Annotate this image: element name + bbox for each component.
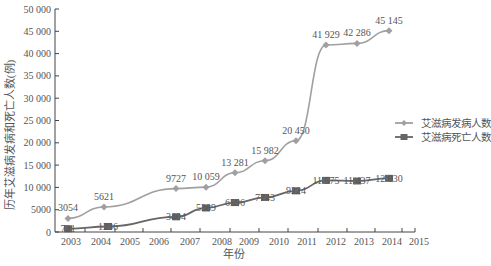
diamond-marker [262, 157, 269, 164]
data-label: 6596 [225, 197, 245, 208]
x-axis-label: 年份 [223, 247, 245, 260]
x-tick-label: 2009 [239, 236, 259, 247]
data-label: 3404 [166, 211, 186, 222]
data-label: 20 450 [282, 125, 310, 136]
y-tick-label: 5000 [31, 204, 51, 215]
y-tick-label: 25 000 [24, 115, 52, 126]
legend-label: 艾滋病发病人数 [421, 117, 491, 129]
y-tick-label: 45 000 [24, 26, 52, 37]
y-tick-label: 0 [46, 227, 51, 238]
y-axis: 0500010 00015 00020 00025 00030 00035 00… [24, 4, 60, 238]
data-label: 7743 [255, 192, 275, 203]
x-tick-label: 2010 [269, 236, 289, 247]
diamond-marker [203, 184, 210, 191]
y-tick-label: 10 000 [24, 182, 52, 193]
x-tick-label: 2012 [326, 236, 346, 247]
y-tick-label: 15 000 [24, 160, 52, 171]
data-label: 9727 [166, 173, 186, 184]
data-label: 721 [61, 223, 76, 234]
legend-label: 艾滋病死亡人数 [421, 131, 491, 143]
data-label: 3054 [58, 202, 78, 213]
diamond-marker [65, 215, 72, 222]
data-label: 45 145 [375, 15, 403, 26]
diamond-marker [101, 203, 108, 210]
legend-square-icon [401, 134, 408, 140]
data-label: 5621 [94, 191, 114, 202]
data-label: 15 982 [251, 145, 279, 156]
data-label: 12 030 [375, 173, 403, 184]
data-label: 5389 [196, 202, 216, 213]
diamond-marker [323, 41, 330, 48]
x-tick-label: 2006 [149, 236, 169, 247]
y-tick-label: 30 000 [24, 93, 52, 104]
data-label: 41 929 [312, 29, 340, 40]
data-label: 10 059 [192, 171, 220, 182]
data-label: 1236 [98, 221, 118, 232]
y-axis-label: 历年艾滋病发病和死亡人数(例) [3, 60, 17, 211]
x-tick-label: 2003 [61, 236, 81, 247]
diamond-marker [354, 40, 361, 47]
y-tick-label: 20 000 [24, 137, 52, 148]
diamond-marker [173, 185, 180, 192]
x-tick-label: 2014 [382, 236, 402, 247]
legend: 艾滋病发病人数艾滋病死亡人数 [395, 117, 491, 143]
y-tick-label: 50 000 [24, 4, 52, 15]
incidence-line [68, 31, 389, 219]
diamond-marker [293, 137, 300, 144]
x-tick-label: 2005 [120, 236, 140, 247]
data-label: 13 281 [221, 157, 249, 168]
x-tick-label: 2007 [180, 236, 200, 247]
y-tick-label: 35 000 [24, 70, 52, 81]
diamond-marker [232, 169, 239, 176]
x-tick-label: 2015 [409, 236, 429, 247]
data-series: 30545621972710 05913 28115 98220 45041 9… [58, 15, 403, 235]
x-tick-label: 2004 [91, 236, 111, 247]
legend-diamond-icon [401, 120, 407, 126]
data-label: 42 286 [343, 27, 371, 38]
x-tick-label: 2011 [297, 236, 317, 247]
x-tick-label: 2008 [212, 236, 232, 247]
data-label: 11 575 [312, 175, 339, 186]
line-chart: 0500010 00015 00020 00025 00030 00035 00… [0, 0, 491, 266]
y-tick-label: 40 000 [24, 48, 52, 59]
diamond-marker [386, 27, 393, 34]
data-label: 9224 [286, 185, 306, 196]
data-label: 11 437 [343, 175, 370, 186]
x-tick-label: 2013 [354, 236, 374, 247]
